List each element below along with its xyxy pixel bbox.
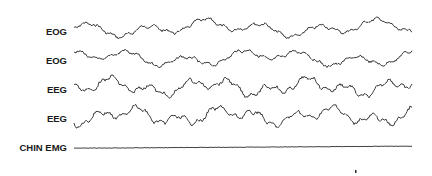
trace-eog-1	[74, 49, 412, 68]
trace-eog-0	[74, 17, 412, 39]
trace-chin-emg-4	[74, 146, 412, 148]
signal-traces	[0, 0, 432, 176]
trace-eeg-2	[74, 75, 412, 98]
trace-eeg-3	[74, 105, 412, 128]
time-marker	[355, 170, 357, 173]
